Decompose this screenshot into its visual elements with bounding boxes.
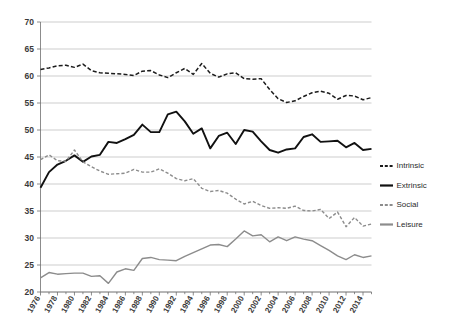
series-line-social bbox=[41, 150, 372, 227]
y-tick-label: 40 bbox=[25, 179, 35, 189]
x-tick-label: 1976 bbox=[26, 294, 43, 314]
x-tick-label: 2006 bbox=[280, 294, 297, 314]
series-line-leisure bbox=[41, 231, 372, 283]
x-tick-label: 1982 bbox=[76, 294, 93, 314]
x-tick-label: 2010 bbox=[314, 294, 331, 314]
line-chart: 2025303540455055606570 19761978198019821… bbox=[0, 0, 463, 336]
data-series-group bbox=[41, 64, 372, 284]
x-tick-label: 1998 bbox=[212, 294, 229, 314]
x-tick-label: 1984 bbox=[93, 294, 110, 314]
y-axis-ticks bbox=[37, 22, 41, 292]
x-tick-label: 1996 bbox=[195, 294, 212, 314]
y-axis-labels: 2025303540455055606570 bbox=[25, 17, 35, 297]
y-tick-label: 30 bbox=[25, 233, 35, 243]
chart-legend: IntrinsicExtrinsicSocialLeisure bbox=[380, 161, 427, 229]
x-tick-label: 1994 bbox=[178, 294, 195, 314]
y-tick-label: 70 bbox=[25, 17, 35, 27]
x-tick-label: 2002 bbox=[246, 294, 263, 314]
y-tick-label: 35 bbox=[25, 206, 35, 216]
legend-label-social: Social bbox=[397, 200, 419, 209]
series-line-intrinsic bbox=[41, 64, 372, 103]
x-tick-label: 2004 bbox=[263, 294, 280, 314]
x-tick-label: 1992 bbox=[161, 294, 178, 314]
legend-label-extrinsic: Extrinsic bbox=[397, 181, 427, 190]
y-tick-label: 25 bbox=[25, 260, 35, 270]
series-line-extrinsic bbox=[41, 112, 372, 188]
x-tick-label: 1986 bbox=[110, 294, 127, 314]
legend-label-leisure: Leisure bbox=[397, 220, 424, 229]
x-tick-label: 2014 bbox=[348, 294, 365, 314]
x-tick-label: 2012 bbox=[331, 294, 348, 314]
x-tick-label: 1990 bbox=[144, 294, 161, 314]
y-tick-label: 50 bbox=[25, 125, 35, 135]
x-tick-label: 2008 bbox=[297, 294, 314, 314]
y-tick-label: 55 bbox=[25, 98, 35, 108]
x-tick-label: 1978 bbox=[43, 294, 60, 314]
x-tick-label: 2000 bbox=[229, 294, 246, 314]
y-tick-label: 60 bbox=[25, 71, 35, 81]
x-tick-label: 1988 bbox=[127, 294, 144, 314]
y-tick-label: 45 bbox=[25, 152, 35, 162]
chart-container: 2025303540455055606570 19761978198019821… bbox=[0, 0, 463, 336]
x-axis-labels: 1976197819801982198419861988199019921994… bbox=[26, 294, 365, 314]
y-tick-label: 65 bbox=[25, 44, 35, 54]
legend-label-intrinsic: Intrinsic bbox=[397, 161, 425, 170]
x-tick-label: 1980 bbox=[59, 294, 76, 314]
